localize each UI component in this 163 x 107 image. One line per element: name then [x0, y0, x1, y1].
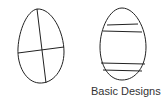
- vertical-divider: [37, 9, 46, 83]
- band-line: [103, 70, 142, 71]
- band-line: [101, 63, 145, 64]
- diagram-caption: Basic Designs: [91, 85, 161, 97]
- band-line: [103, 31, 142, 32]
- egg-outline: [100, 8, 146, 80]
- horizontal-divider: [18, 47, 64, 53]
- egg-outline: [18, 9, 64, 83]
- band-line: [107, 24, 138, 25]
- egg-striped: [100, 8, 146, 80]
- egg-quartered: [18, 9, 64, 83]
